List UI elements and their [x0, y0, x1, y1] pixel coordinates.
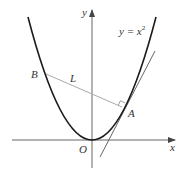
right-angle-marker [118, 101, 125, 106]
point-B-label: B [31, 68, 38, 80]
parabola-diagram: y = x2 y x O B A L [0, 0, 186, 174]
tangent-line [100, 51, 155, 157]
y-axis-label: y [81, 6, 87, 18]
origin-label: O [79, 143, 87, 155]
x-axis-label: x [169, 141, 175, 153]
line-L-label: L [69, 72, 76, 84]
normal-line-L [46, 74, 122, 107]
curve-equation-label: y = x2 [118, 24, 146, 37]
point-A-label: A [127, 107, 135, 119]
